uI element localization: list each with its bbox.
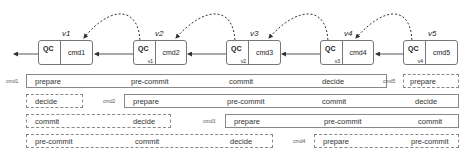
phase-decide: decide xyxy=(35,97,57,106)
block-v3: QC v2 cmd3 xyxy=(226,40,281,65)
block-v4: QC v3 cmd4 xyxy=(320,40,374,65)
phase-prepare: prepare xyxy=(133,97,159,106)
qc-label: QC xyxy=(408,45,419,52)
cmd-label: cmd5 xyxy=(426,49,457,56)
version-label-v1: v1 xyxy=(62,29,70,38)
phase-prepare: prepare xyxy=(323,137,349,146)
phase-pre-commit: pre-commit xyxy=(35,137,73,146)
phase-pre-commit: pre-commit xyxy=(411,137,449,146)
qc-label: QC xyxy=(325,45,336,52)
phase-commit: commit xyxy=(418,117,442,126)
cmd-label: cmd1 xyxy=(61,49,92,56)
phase-decide: decide xyxy=(230,137,252,146)
pipeline-bar-cmd4: prepare pre-commit xyxy=(314,134,459,148)
qc-label: QC xyxy=(43,45,54,52)
row-label-cmd1: cmd1 xyxy=(6,78,18,84)
cmd-label: cmd2 xyxy=(156,49,186,56)
block-v1: QC cmd1 xyxy=(38,40,93,65)
phase-commit: commit xyxy=(322,97,346,106)
cmd-label: cmd3 xyxy=(249,49,280,56)
qc-ref: v4 xyxy=(418,58,423,64)
qc-label: QC xyxy=(138,45,149,52)
row-label-cmd5: cmd5 xyxy=(383,78,395,84)
block-v5: QC v4 cmd5 xyxy=(403,40,458,65)
pipeline-bar-cmd5: prepare xyxy=(403,74,459,88)
row-label-cmd2: cmd2 xyxy=(103,98,115,104)
version-label-v4: v4 xyxy=(344,29,352,38)
qc-ref: v1 xyxy=(148,58,153,64)
qc-cell: QC xyxy=(39,41,61,64)
qc-label: QC xyxy=(231,45,242,52)
version-label-v3: v3 xyxy=(250,29,258,38)
pipeline-bar-cmd1: prepare pre-commit commit decide xyxy=(26,74,387,88)
phase-prepare: prepare xyxy=(410,77,436,86)
phase-commit: commit xyxy=(229,77,253,86)
qc-cell: QC v2 xyxy=(227,41,249,64)
phase-decide: decide xyxy=(133,117,155,126)
qc-cell: QC v1 xyxy=(134,41,156,64)
phase-decide: decide xyxy=(322,77,344,86)
qc-ref: v2 xyxy=(241,58,246,64)
qc-cell: QC v3 xyxy=(321,41,343,64)
phase-pre-commit: pre-commit xyxy=(324,117,362,126)
phase-pre-commit: pre-commit xyxy=(131,77,169,86)
phase-prepare: prepare xyxy=(234,117,260,126)
row-label-cmd3: cmd3 xyxy=(203,118,215,124)
phase-commit: commit xyxy=(35,117,59,126)
qc-cell: QC v4 xyxy=(404,41,426,64)
pipeline-bar-cmd1-wrap: decide xyxy=(26,94,83,108)
row-label-cmd4: cmd4 xyxy=(293,138,305,144)
version-label-v5: v5 xyxy=(428,29,436,38)
pipeline-bar-cmd2-wrap: commit decide xyxy=(26,114,171,128)
cmd-label: cmd4 xyxy=(343,49,373,56)
phase-commit: commit xyxy=(135,137,159,146)
pipeline-bar-cmd3-wrap: pre-commit commit decide xyxy=(26,134,273,148)
phase-prepare: prepare xyxy=(35,77,61,86)
version-label-v2: v2 xyxy=(155,29,163,38)
pipeline-bar-cmd3: prepare pre-commit commit xyxy=(225,114,459,128)
phase-pre-commit: pre-commit xyxy=(227,97,265,106)
pipeline-bar-cmd2: prepare pre-commit commit decide xyxy=(124,94,459,108)
block-v2: QC v1 cmd2 xyxy=(133,40,187,65)
phase-decide: decide xyxy=(415,97,437,106)
qc-ref: v3 xyxy=(335,58,340,64)
